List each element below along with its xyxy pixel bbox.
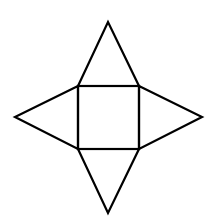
bottom-triangle-face [78, 149, 139, 213]
top-triangle-face [78, 22, 139, 86]
net-svg [0, 0, 212, 219]
left-triangle-face [15, 86, 78, 149]
square-base-face [78, 86, 139, 149]
pyramid-net-diagram: Net of a square pyramid [0, 0, 212, 219]
right-triangle-face [139, 86, 202, 149]
